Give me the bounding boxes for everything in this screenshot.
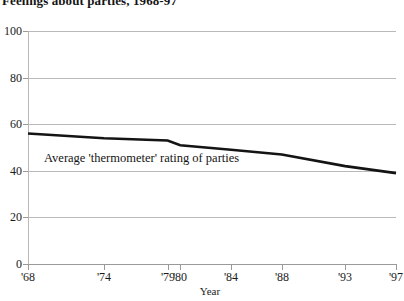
y-tick <box>23 31 28 32</box>
x-tick-label: '97 <box>389 270 403 285</box>
x-tick-label: '80 <box>173 270 187 285</box>
x-tick-label: '84 <box>224 270 238 285</box>
y-gridline <box>28 124 396 125</box>
y-gridline <box>28 78 396 79</box>
x-tick-label: '88 <box>275 270 289 285</box>
y-tick-label: 40 <box>0 164 22 179</box>
series-annotation-label: Average 'thermometer' rating of parties <box>44 151 239 166</box>
y-tick <box>23 217 28 218</box>
x-tick-label: '74 <box>97 270 111 285</box>
y-gridline <box>28 31 396 32</box>
y-axis-spine <box>28 31 29 265</box>
y-tick <box>23 78 28 79</box>
y-tick-label: 20 <box>0 210 22 225</box>
y-gridline <box>28 171 396 172</box>
y-tick-label: 100 <box>0 24 22 39</box>
y-gridline <box>28 264 396 265</box>
y-tick <box>23 124 28 125</box>
x-axis-title-text: Year <box>200 285 220 297</box>
x-axis-title: Year <box>0 285 404 297</box>
y-tick <box>23 171 28 172</box>
y-tick-label: 80 <box>0 71 22 86</box>
x-tick-label: '93 <box>338 270 352 285</box>
x-tick-label: '68 <box>21 270 35 285</box>
y-tick-label: 60 <box>0 117 22 132</box>
plot-area <box>28 31 396 264</box>
y-gridline <box>28 217 396 218</box>
y-tick-label: 0 <box>0 257 22 272</box>
chart-title: Feelings about parties, 1968-97 <box>2 0 177 9</box>
